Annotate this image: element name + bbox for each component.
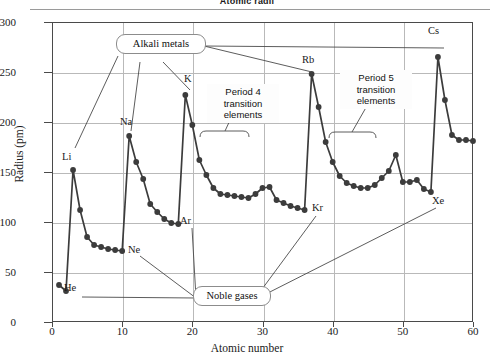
brace-period5	[329, 132, 376, 138]
leader-alkali-rb	[204, 46, 312, 72]
atomic-radii-figure: Atomic radii Radius (pm) Atomic number 0…	[0, 0, 494, 359]
callout-period4-line2: transition	[211, 98, 275, 110]
callout-period5-transition[interactable]: Period 5 transition elements	[340, 70, 412, 109]
leader-alkali-na	[131, 62, 140, 131]
leader-alkali-li	[75, 56, 118, 148]
callout-period4-transition[interactable]: Period 4 transition elements	[207, 84, 279, 123]
callout-period5-line2: transition	[344, 84, 408, 96]
callout-alkali-metals[interactable]: Alkali metals	[116, 34, 206, 54]
brace-period4	[200, 131, 249, 137]
callout-noble-gases[interactable]: Noble gases	[193, 286, 271, 306]
leader-noble-ne	[140, 256, 196, 298]
leader-noble-xe	[254, 208, 436, 300]
callout-period5-line3: elements	[344, 95, 408, 107]
leader-noble-he	[82, 297, 196, 298]
callout-period4-line3: elements	[211, 109, 275, 121]
callout-period4-line1: Period 4	[211, 86, 275, 98]
callout-period5-line1: Period 5	[344, 72, 408, 84]
leader-alkali-cs	[204, 46, 444, 48]
leader-alkali-k	[163, 62, 190, 90]
